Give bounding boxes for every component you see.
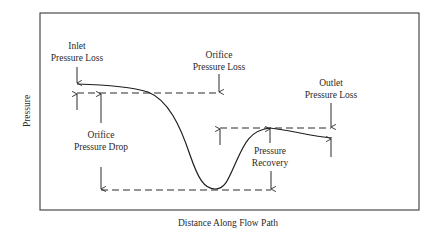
pressure-recovery-label: Pressure Recovery xyxy=(252,146,289,168)
recovery-label-line2: Recovery xyxy=(252,158,289,168)
inlet-label-line1: Inlet xyxy=(68,41,86,51)
recovery-label-line1: Pressure xyxy=(254,146,286,156)
inlet-pressure-loss-label: Inlet Pressure Loss xyxy=(51,41,104,63)
orifice-pressure-loss-label: Orifice Pressure Loss xyxy=(193,50,246,72)
pressure-diagram: Distance Along Flow Path Pressure Inlet … xyxy=(0,0,439,230)
outlet-label-line1: Outlet xyxy=(319,78,343,88)
orifice-loss-label-line1: Orifice xyxy=(206,50,233,60)
pressure-curve xyxy=(77,84,332,189)
orifice-pressure-drop-label: Orifice Pressure Drop xyxy=(74,130,128,152)
inlet-label-line2: Pressure Loss xyxy=(51,53,104,63)
outlet-pressure-loss-label: Outlet Pressure Loss xyxy=(305,78,358,100)
orifice-loss-label-line2: Pressure Loss xyxy=(193,62,246,72)
orifice-drop-label-line1: Orifice xyxy=(88,130,115,140)
orifice-drop-label-line2: Pressure Drop xyxy=(74,142,128,152)
outlet-label-line2: Pressure Loss xyxy=(305,90,358,100)
plot-frame xyxy=(40,13,419,210)
x-axis-label: Distance Along Flow Path xyxy=(178,218,278,228)
y-axis-label: Pressure xyxy=(22,95,32,127)
